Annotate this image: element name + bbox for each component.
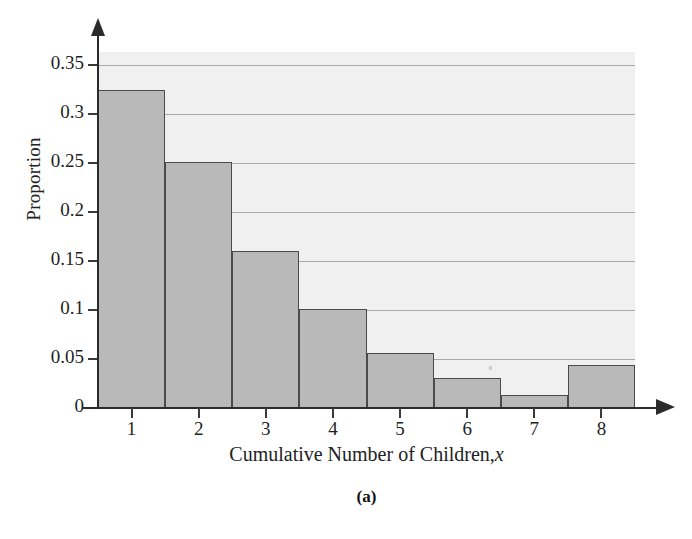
x-axis-line [82,407,660,409]
x-axis-tick-label: 7 [514,418,554,440]
x-axis-tick-label: 8 [581,418,621,440]
bar [165,162,232,408]
x-axis-tick [600,408,602,418]
y-axis-tick-label: 0.15 [51,248,84,270]
bar [434,378,501,408]
figure-panel-a: Proportion 00.050.10.150.20.250.30.35 12… [0,0,692,539]
bar [232,251,299,408]
x-axis-tick [399,408,401,418]
x-axis-tick-label: 2 [179,418,219,440]
x-axis-tick-label: 4 [313,418,353,440]
panel-caption: (a) [98,487,635,507]
gridline [98,65,635,66]
bar [367,353,434,408]
x-axis-label-text: Cumulative Number of Children, [229,443,495,465]
bar [568,365,635,408]
x-axis-arrowhead-icon [656,399,675,415]
bar [299,309,366,408]
y-axis-arrowhead-icon [91,18,105,36]
x-axis-tick-label: 6 [447,418,487,440]
y-axis-label: Proportion [23,99,45,259]
y-axis-tick-label: 0.1 [60,297,84,319]
x-axis-tick [265,408,267,418]
x-axis-label: Cumulative Number of Children,x [98,443,635,466]
x-axis-tick [533,408,535,418]
y-axis-tick-label: 0 [75,395,85,417]
x-axis-tick [131,408,133,418]
y-axis-tick-label: 0.3 [60,101,84,123]
y-axis-tick-label: 0.2 [60,199,84,221]
x-axis-tick [198,408,200,418]
gridline [98,114,635,115]
x-axis-tick [332,408,334,418]
bar [98,90,165,409]
x-axis-tick-label: 5 [380,418,420,440]
y-axis-tick-label: 0.35 [51,52,84,74]
x-axis-tick-label: 1 [112,418,152,440]
scan-speck-artifact [489,366,492,370]
y-axis-tick-label: 0.25 [51,150,84,172]
y-axis-line [97,32,99,409]
x-axis-tick-label: 3 [246,418,286,440]
x-axis-label-variable: x [495,443,504,465]
x-axis-tick [466,408,468,418]
y-axis-tick-label: 0.05 [51,346,84,368]
